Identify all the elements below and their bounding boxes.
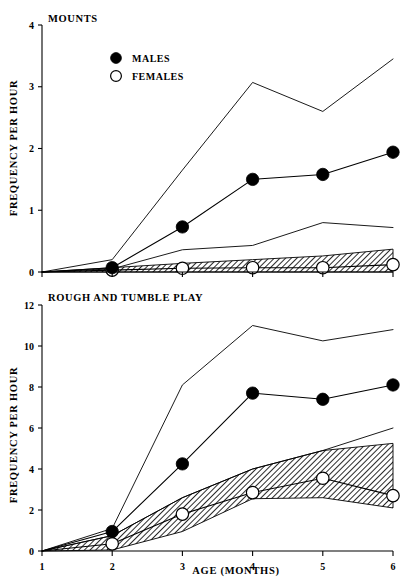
plot-area-rtp <box>42 326 399 552</box>
y-tick-label: 3 <box>29 81 34 92</box>
legend-male-marker-icon <box>111 53 122 64</box>
y-axis-title-mounts: FREQUENCY PER HOUR <box>8 80 19 216</box>
male-data-point <box>317 393 329 405</box>
y-tick-label: 6 <box>29 423 34 434</box>
female-data-point <box>387 258 399 270</box>
legend-female-marker-icon <box>111 71 122 82</box>
x-axis-title: AGE (MONTHS) <box>192 565 279 577</box>
chart-mounts: 01234 MOUNTS FREQUENCY PER HOUR MALES FE… <box>0 0 407 292</box>
male-data-point <box>317 168 329 180</box>
male-data-point <box>176 458 188 470</box>
panel-rough-and-tumble-play: 024681012 123456 ROUGH AND TUMBLE PLAY F… <box>0 283 407 583</box>
y-tick-label: 0 <box>29 267 34 278</box>
x-tick-label: 1 <box>40 561 45 572</box>
y-tick-label: 2 <box>29 505 34 516</box>
plot-area-mounts <box>42 59 399 276</box>
legend-mounts: MALES FEMALES <box>111 53 184 82</box>
x-tick-marks-mounts <box>42 272 393 277</box>
x-tick-label: 6 <box>391 561 396 572</box>
y-tick-labels-mounts: 01234 <box>29 20 34 278</box>
female-data-point <box>106 538 118 550</box>
male-data-point <box>387 146 399 158</box>
y-tick-label: 4 <box>29 20 34 31</box>
y-tick-label: 0 <box>29 546 34 557</box>
female-data-point <box>246 486 258 498</box>
chart-rough-and-tumble-play: 024681012 123456 ROUGH AND TUMBLE PLAY F… <box>0 283 407 583</box>
y-tick-marks-mounts <box>38 25 42 272</box>
x-tick-label: 5 <box>320 561 325 572</box>
female-data-point <box>176 508 188 520</box>
y-tick-label: 1 <box>29 205 34 216</box>
y-tick-marks-rtp <box>38 305 42 551</box>
y-tick-label: 8 <box>29 382 34 393</box>
panel-title-mounts: MOUNTS <box>48 13 98 24</box>
panel-mounts: 01234 MOUNTS FREQUENCY PER HOUR MALES FE… <box>0 0 407 292</box>
female-data-point <box>387 489 399 501</box>
male-upper-envelope-line <box>42 326 393 552</box>
x-tick-marks-rtp <box>42 551 393 556</box>
y-tick-label: 4 <box>29 464 34 475</box>
figure-root: 01234 MOUNTS FREQUENCY PER HOUR MALES FE… <box>0 0 407 583</box>
male-upper-envelope-line <box>42 59 393 272</box>
x-tick-label: 2 <box>110 561 115 572</box>
female-variation-band <box>42 443 393 551</box>
legend-male-label: MALES <box>132 53 170 64</box>
legend-female-label: FEMALES <box>132 71 184 82</box>
y-axis-title-rtp: FREQUENCY PER HOUR <box>8 367 19 503</box>
y-tick-labels-rtp: 024681012 <box>24 300 34 557</box>
male-data-point <box>387 379 399 391</box>
female-data-point <box>317 472 329 484</box>
male-data-point <box>106 525 118 537</box>
male-data-point <box>176 221 188 233</box>
y-tick-label: 12 <box>24 300 34 311</box>
male-data-point <box>246 387 258 399</box>
male-data-point <box>246 173 258 185</box>
x-tick-label: 3 <box>180 561 185 572</box>
y-tick-label: 10 <box>24 341 34 352</box>
panel-title-rtp: ROUGH AND TUMBLE PLAY <box>48 292 203 303</box>
y-tick-label: 2 <box>29 143 34 154</box>
